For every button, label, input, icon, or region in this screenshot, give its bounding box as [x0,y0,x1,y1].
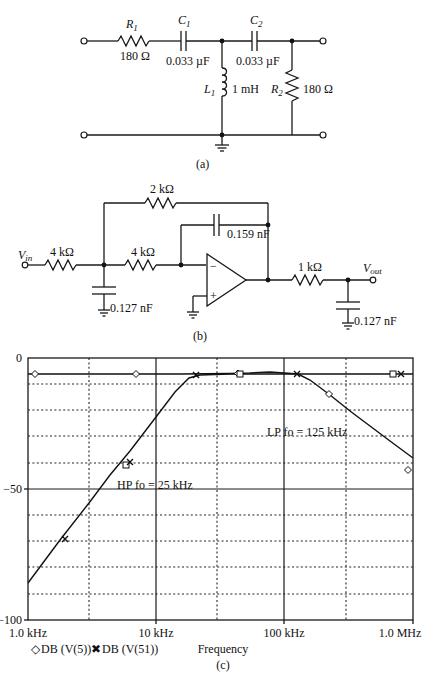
legend-label-v5: DB (V(5)) [41,642,91,656]
vout-terminal [370,277,376,283]
output-terminal-top [320,38,326,44]
x-tick-10k: 10 kHz [139,626,174,640]
opamp-plus: + [210,289,217,303]
resistor-rfb-symbol [145,198,176,208]
caption-c: (c) [216,658,229,672]
input-terminal-bottom [81,132,87,138]
x-tick-1k: 1.0 kHz [9,626,47,640]
r2-label: R2 [270,82,283,98]
rin-value: 4 kΩ [50,245,74,259]
opamp-minus: − [210,259,217,273]
x-tick-1m: 1.0 MHz [379,626,422,640]
input-terminal-top [81,38,87,44]
rfb-value: 2 kΩ [150,182,174,196]
series-v51-curve [28,374,413,583]
cout-value: 0.127 nF [354,314,397,328]
chart-legend: ◇ DB (V(5)) ✖ DB (V(51)) [31,642,158,656]
resistor-r1-symbol [118,36,149,46]
c2-label: C2 [250,13,263,29]
y-tick-0: 0 [16,351,22,365]
output-terminal-bottom [320,132,326,138]
vin-label: Vin [18,248,33,263]
ground-icon [98,310,110,316]
resistor-rmid-symbol [125,260,156,270]
resistor-rin-symbol [45,260,76,270]
x-tick-100k: 100 kHz [264,626,305,640]
vout-label: Vout [363,261,382,276]
c1-label: C1 [178,13,191,29]
c2-value: 0.033 µF [236,54,280,68]
ground-icon [215,135,229,151]
series-v5-curve [28,372,413,458]
l1-label: L1 [203,82,215,98]
annotation-lp: LP fo = 125 kHz [267,425,347,439]
l1-value: 1 mH [232,82,259,96]
series-v51-markers [62,371,404,542]
circuit-b: − + [18,182,397,343]
resistor-r2-symbol [286,70,298,101]
bode-chart: HP fo = 25 kHz LP fo = 125 kHz 0 −50 −10… [0,351,421,672]
y-tick-50: −50 [3,482,22,496]
r1-value: 180 Ω [120,49,150,63]
circuit-a: R1 180 Ω C1 0.033 µF C2 0.033 µF L1 1 mH… [81,13,333,171]
legend-marker-diamond: ◇ [31,642,41,656]
ground-icon [187,312,199,318]
r1-label: R1 [125,17,138,33]
rmid-value: 4 kΩ [131,245,155,259]
caption-a: (a) [196,157,209,171]
cin-value: 0.127 nF [110,301,153,315]
cfb-value: 0.159 nF [227,227,270,241]
y-tick-100: −100 [0,613,22,627]
legend-label-v51: DB (V(51)) [102,642,158,656]
inductor-l1-symbol [222,68,227,96]
ground-icon [342,323,354,329]
x-axis-label: Frequency [198,642,249,656]
annotation-hp: HP fo = 25 kHz [117,478,193,492]
rout-value: 1 kΩ [298,260,322,274]
r2-value: 180 Ω [303,82,333,96]
caption-b: (b) [193,329,207,343]
resistor-rout-symbol [292,275,323,285]
legend-marker-x: ✖ [91,642,101,656]
c1-value: 0.033 µF [166,54,210,68]
vin-terminal [22,262,28,268]
